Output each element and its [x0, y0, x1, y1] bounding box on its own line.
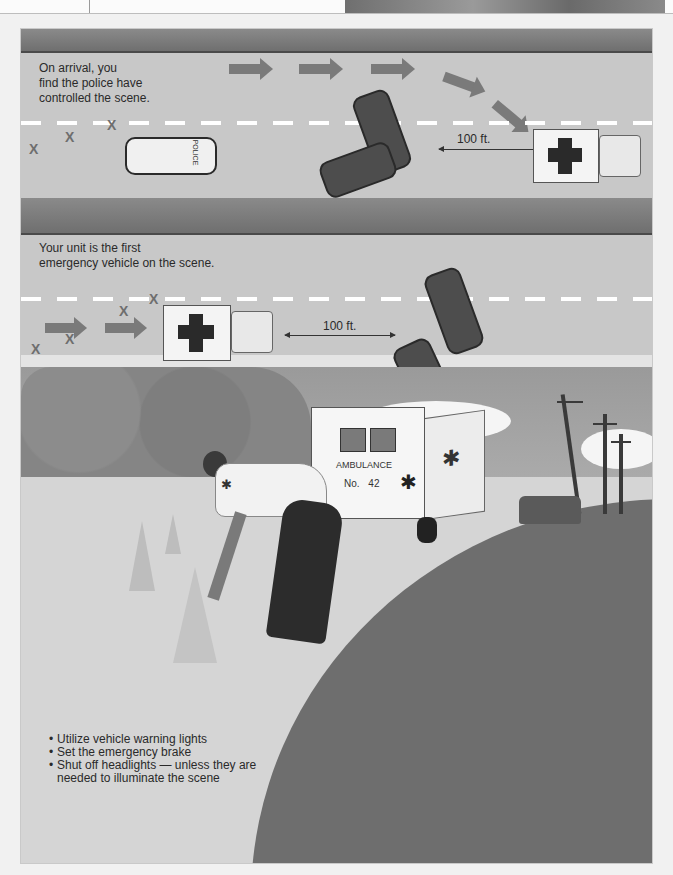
- arrow-right-icon: [371, 64, 403, 74]
- illustration-frame: On arrival, you find the police have con…: [20, 28, 653, 864]
- caption-line: emergency vehicle on the scene.: [39, 256, 214, 271]
- trousers: [266, 498, 345, 645]
- utility-pole: [619, 434, 623, 514]
- hazard-mark: X: [107, 117, 116, 133]
- header-photo-crop: [345, 0, 665, 13]
- page-header-strip: [0, 0, 673, 14]
- number-value: 42: [368, 478, 379, 489]
- ambulance-topview: [533, 129, 599, 183]
- road-shoulder-bottom-1: [21, 198, 652, 235]
- distance-label: 100 ft.: [323, 319, 356, 333]
- wheel: [417, 517, 437, 543]
- arm: [207, 511, 246, 600]
- ambulance-topview: [163, 305, 231, 361]
- hazard-mark: X: [149, 291, 158, 307]
- police-car: POLICE: [125, 137, 217, 175]
- cloud: [581, 429, 653, 469]
- hazard-mark: X: [65, 331, 74, 347]
- distant-car: [519, 496, 581, 524]
- arrow-right-icon: [299, 64, 331, 74]
- ambulance-side: ✱: [423, 410, 485, 521]
- arrow-right-icon: [105, 323, 135, 333]
- hazard-mark: X: [65, 129, 74, 145]
- lane-divider: [21, 297, 652, 301]
- caption-line: Your unit is the first: [39, 241, 214, 256]
- star-of-life-icon: ✱: [442, 444, 460, 473]
- distance-indicator: [285, 335, 395, 336]
- police-label: POLICE: [193, 140, 200, 166]
- emt-person: ✱: [191, 451, 351, 651]
- star-of-life-icon: ✱: [221, 477, 232, 492]
- ambulance-cab: [231, 311, 273, 353]
- caption-line: On arrival, you: [39, 61, 150, 76]
- header-divider: [89, 0, 90, 13]
- caption-line: controlled the scene.: [39, 91, 150, 106]
- utility-pole-crossbar: [611, 441, 631, 443]
- hazard-mark: X: [119, 303, 128, 319]
- medical-cross-icon: [178, 325, 214, 339]
- caption-line: find the police have: [39, 76, 150, 91]
- distance-label: 100 ft.: [457, 132, 490, 146]
- arrow-right-icon: [229, 64, 261, 74]
- safety-checklist: Utilize vehicle warning lights Set the e…: [49, 733, 289, 785]
- rear-window: [370, 428, 396, 452]
- hazard-mark: X: [31, 341, 40, 357]
- traffic-cone: [165, 514, 181, 554]
- ambulance-cab: [599, 135, 641, 177]
- utility-pole-crossbar: [593, 423, 617, 425]
- utility-pole: [603, 414, 607, 514]
- star-of-life-icon: ✱: [400, 470, 417, 494]
- panel-1-caption: On arrival, you find the police have con…: [39, 61, 150, 106]
- distance-indicator: [439, 149, 547, 150]
- hazard-mark: X: [29, 141, 38, 157]
- road-shoulder-top-1: [21, 29, 652, 53]
- medical-cross-icon: [548, 148, 582, 162]
- rear-window: [340, 428, 366, 452]
- traffic-cone: [129, 521, 155, 591]
- utility-pole-crossbar: [557, 401, 583, 403]
- checklist-item: Shut off headlights — unless they are ne…: [49, 759, 289, 785]
- panel-2-caption: Your unit is the first emergency vehicle…: [39, 241, 214, 271]
